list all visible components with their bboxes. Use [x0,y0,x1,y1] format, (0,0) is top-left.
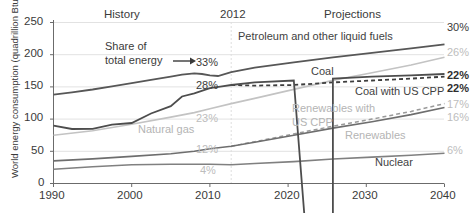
y-tick-200: 200 [24,48,43,60]
x-tick-2010: 2010 [195,190,221,202]
y-tick-100: 100 [24,112,43,124]
share-2012-coal: 28% [196,80,218,91]
energy-consumption-chart: World energy consumption (quadrillion Bt… [0,0,473,213]
share-2040-nuclear: 6% [447,145,463,156]
x-tick-1990: 1990 [39,190,65,202]
x-tick-2040: 2040 [430,190,456,202]
x-tick-2020: 2020 [274,190,300,202]
share-annotation-line1: Share of [105,41,147,52]
share-2040-coal: 22% [447,70,469,81]
arrow-right-icon [173,55,197,67]
share-2040-renewables-us-cpp: 17% [447,99,469,110]
y-axis-ticks [50,23,54,184]
share-2040-natural-gas: 26% [447,47,469,58]
history-header: History [104,9,140,21]
x-axis-ticks [54,184,445,188]
projections-header: Projections [324,9,381,21]
series-label-petroleum: Petroleum and other liquid fuels [238,31,393,42]
share-annotation-line2: total energy [105,55,162,66]
share-2012-petroleum: 33% [196,57,218,68]
share-2012-natural-gas: 23% [196,113,218,124]
share-2012-nuclear: 4% [200,165,216,176]
y-tick-150: 150 [24,80,43,92]
split-year-header: 2012 [220,9,246,21]
share-2012-renewables: 12% [196,144,218,155]
x-tick-2030: 2030 [352,190,378,202]
series-label-coal: Coal [311,66,334,77]
series-label-nuclear: Nuclear [375,157,413,168]
y-tick-50: 50 [31,145,44,157]
y-axis-title: World energy consumption (quadrillion Bt… [10,0,20,178]
series-label-renewables-us-cpp-line2: US CPP [292,117,333,128]
series-label-natural-gas: Natural gas [138,124,194,135]
chart-canvas [0,0,473,213]
x-tick-2000: 2000 [117,190,143,202]
series-label-renewables-us-cpp-line1: Renewables with [292,103,375,114]
y-tick-0: 0 [38,177,44,189]
y-tick-250: 250 [24,16,43,28]
share-2040-renewables: 16% [447,112,469,123]
share-2040-petroleum: 30% [447,22,469,33]
share-2040-coal-us-cpp: 22% [447,83,469,94]
series-label-coal-us-cpp: Coal with US CPP [355,86,444,97]
series-label-renewables: Renewables [345,130,406,141]
